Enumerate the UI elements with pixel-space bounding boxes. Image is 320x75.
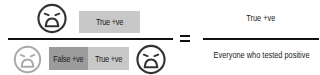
left-fraction-line xyxy=(8,38,173,40)
result-numerator-label: True +ve xyxy=(246,13,275,23)
result-denominator-text: Everyone who tested positive xyxy=(203,50,319,60)
result-numerator-text: True +ve xyxy=(203,13,319,23)
numerator-true-positive-box: True +ve xyxy=(79,11,140,33)
tired-face-icon xyxy=(12,45,43,74)
equals-sign xyxy=(180,35,190,43)
false-positive-box: False +ve xyxy=(49,47,88,70)
right-fraction-line xyxy=(203,38,319,40)
false-positive-label: False +ve xyxy=(53,54,83,64)
numerator-true-positive-label: True +ve xyxy=(96,17,123,27)
result-denominator-label: Everyone who tested positive xyxy=(214,50,310,60)
denominator-true-positive-box: True +ve xyxy=(88,47,129,70)
denominator-true-positive-label: True +ve xyxy=(95,54,122,64)
tired-face-icon xyxy=(135,44,167,75)
tired-face-icon xyxy=(36,3,68,34)
